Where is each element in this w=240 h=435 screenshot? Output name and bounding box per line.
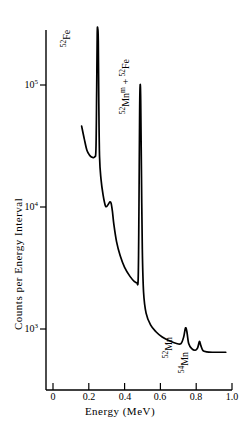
spectrum-figure: 105 104 103 0 0.2 0.4 0.6 0.8 1.0 Energy…	[0, 0, 240, 435]
y-axis-ticks	[40, 85, 46, 329]
y-tick-label-1e5: 105	[8, 78, 38, 90]
mn54-peak-label: 54Mn	[177, 352, 190, 373]
x-tick-label-1p0: 1.0	[217, 391, 240, 402]
x-tick-label-0p8: 0.8	[181, 391, 211, 402]
spectrum-curve	[82, 27, 226, 352]
x-tick-label-0p6: 0.6	[145, 391, 175, 402]
x-tick-label-0p2: 0.2	[74, 391, 104, 402]
mn52m-fe52-peak-label: 52Mnm + 52Fe	[118, 59, 131, 114]
x-tick-label-0: 0	[43, 391, 63, 402]
mn52-peak-label: 52Mn	[161, 337, 174, 358]
x-axis-ticks	[53, 383, 232, 390]
x-axis-title: Energy (MeV)	[0, 405, 240, 417]
y-axis-title: Counts per Energy Interval	[12, 198, 24, 330]
x-tick-label-0p4: 0.4	[110, 391, 140, 402]
fe52-peak-label: 52Fe	[59, 30, 72, 48]
